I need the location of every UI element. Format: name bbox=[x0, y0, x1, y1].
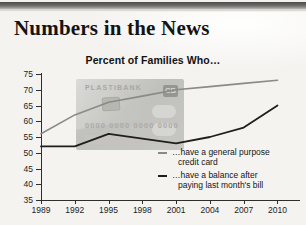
legend-label-credit-card-line1: …have a general purpose bbox=[172, 147, 270, 157]
legend-item-credit-card: …have a general purpose credit card bbox=[158, 147, 304, 167]
legend-label-balance-line1: …have a balance after bbox=[172, 170, 258, 180]
legend-label-credit-card-line2: credit card bbox=[172, 157, 218, 167]
legend-swatch-credit-card bbox=[158, 152, 167, 154]
line-balance-after-paying bbox=[41, 106, 278, 147]
chart-legend: …have a general purpose credit card …hav… bbox=[158, 147, 304, 193]
legend-item-balance: …have a balance after paying last month'… bbox=[158, 170, 304, 190]
legend-label-balance-line2: paying last month's bill bbox=[172, 180, 263, 190]
legend-swatch-balance bbox=[158, 175, 167, 177]
news-graphic-page: Numbers in the News Percent of Families … bbox=[0, 0, 306, 225]
line-general-purpose-credit-card bbox=[41, 80, 278, 134]
